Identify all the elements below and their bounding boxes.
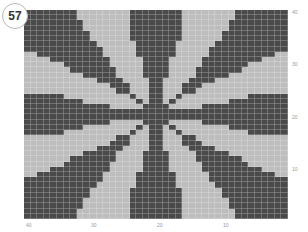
chart-cell — [196, 214, 203, 219]
chart-cell — [255, 214, 262, 219]
chart-cell — [156, 214, 163, 219]
chart-cell — [229, 214, 236, 219]
column-label: 10 — [223, 222, 229, 228]
chart-cell — [202, 214, 209, 219]
row-label: 30 — [292, 61, 298, 67]
chart-cell — [64, 214, 71, 219]
chart-cell — [275, 214, 282, 219]
column-label: 20 — [157, 222, 163, 228]
chart-cell — [37, 214, 44, 219]
chart-cell — [83, 214, 90, 219]
chart-cell — [90, 214, 97, 219]
chart-cell — [116, 214, 123, 219]
chart-cell — [176, 214, 183, 219]
chart-cell — [136, 214, 143, 219]
chart-cell — [130, 214, 137, 219]
chart-number-badge: 57 — [2, 3, 28, 29]
chart-cell — [268, 214, 275, 219]
chart-cell — [262, 214, 269, 219]
column-label: 30 — [91, 222, 97, 228]
row-label: 40 — [292, 9, 298, 15]
row-label: 10 — [292, 166, 298, 172]
chart-cell — [143, 214, 150, 219]
chart-cell — [242, 214, 249, 219]
chart-cell — [169, 214, 176, 219]
chart-cell — [97, 214, 104, 219]
chart-cell — [103, 214, 110, 219]
chart-cell — [24, 214, 31, 219]
chart-cell — [110, 214, 117, 219]
chart-number: 57 — [8, 9, 21, 23]
chart-cell — [163, 214, 170, 219]
chart-cell — [57, 214, 64, 219]
chart-cell — [149, 214, 156, 219]
chart-cell — [44, 214, 51, 219]
knitting-chart-grid — [24, 10, 288, 219]
chart-cell — [77, 214, 84, 219]
chart-cell — [222, 214, 229, 219]
chart-cell — [209, 214, 216, 219]
chart-cell — [281, 214, 288, 219]
chart-cell — [215, 214, 222, 219]
chart-cell — [189, 214, 196, 219]
row-label: 20 — [292, 114, 298, 120]
chart-cell — [235, 214, 242, 219]
chart-cell — [182, 214, 189, 219]
chart-cell — [31, 214, 38, 219]
chart-cell — [70, 214, 77, 219]
chart-cell — [248, 214, 255, 219]
column-label: 40 — [26, 222, 32, 228]
chart-cell — [123, 214, 130, 219]
chart-cell — [50, 214, 57, 219]
